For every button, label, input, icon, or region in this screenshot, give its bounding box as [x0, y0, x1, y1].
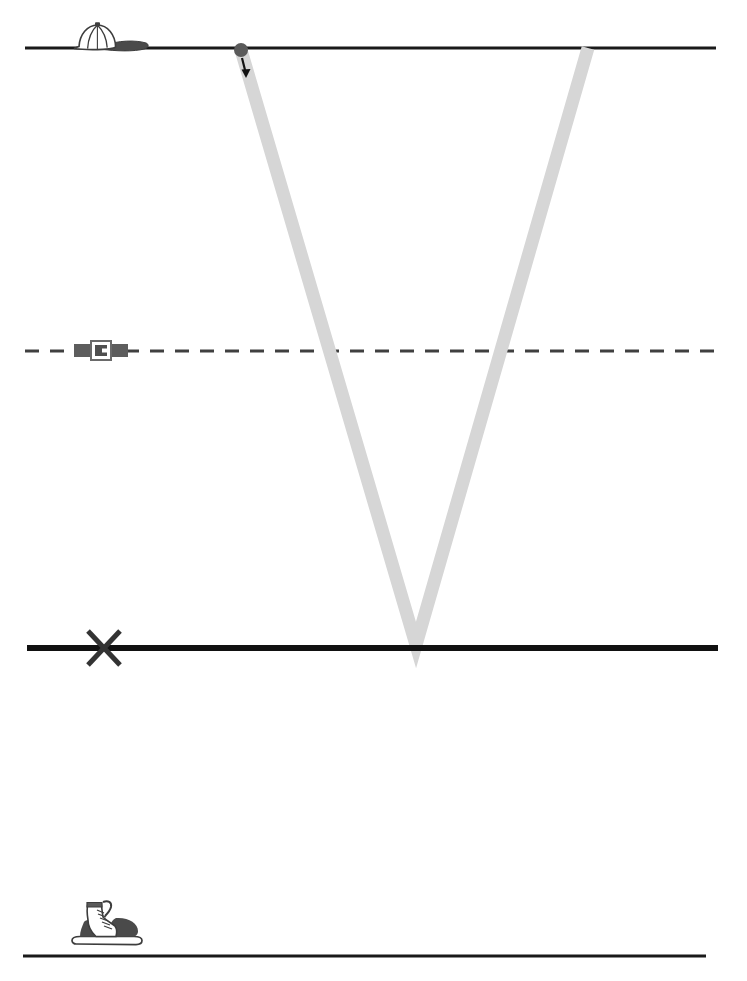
- hiking-boot-icon: [72, 901, 142, 944]
- belt-buckle-icon: [74, 341, 128, 360]
- boot-pull-loop: [103, 901, 111, 916]
- baseball-cap-icon: [74, 22, 148, 51]
- boot-upper: [87, 903, 116, 937]
- belt-buckle-tongue: [102, 349, 108, 353]
- boot-collar: [87, 903, 102, 908]
- ball-path-group: [241, 48, 588, 645]
- trajectory-diagram-svg: [0, 0, 747, 981]
- ball-path: [241, 48, 588, 645]
- boot-sole: [72, 937, 142, 945]
- ball-marker: [234, 43, 248, 57]
- diagram-canvas: Ball trajectory relative to body-height …: [0, 0, 747, 981]
- cap-button: [95, 22, 100, 26]
